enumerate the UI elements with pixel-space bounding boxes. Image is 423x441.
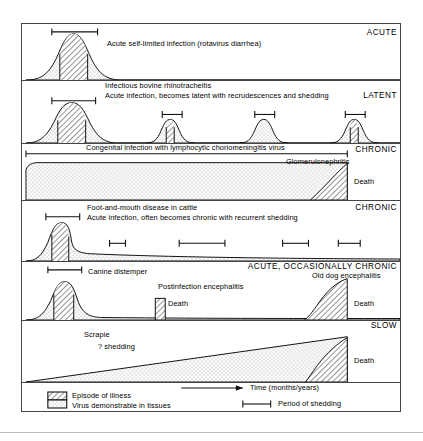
panel-chronic-lcmv: CHRONIC Congenital infection with lympho…	[22, 144, 400, 201]
figure-root: ACUTE Acute self-limited infection (rota…	[0, 0, 423, 441]
panel-slow-line-1: Scrapie	[84, 331, 110, 339]
panel-slow-line-2: ? shedding	[98, 343, 135, 351]
panel-chronic-fmd-line-2: Acute infection, often becomes chronic w…	[87, 214, 298, 222]
panel-chronic-fmd-category: CHRONIC	[355, 203, 397, 212]
footer-divider	[0, 432, 423, 433]
panel-acute: ACUTE Acute self-limited infection (rota…	[22, 24, 400, 81]
panel-acute-line-1: Acute self-limited infection (rotavirus …	[107, 40, 261, 48]
panel-slow-plot	[22, 321, 400, 382]
panel-chronic-lcmv-death: Death	[354, 178, 374, 186]
panel-chronic-lcmv-plot	[22, 144, 400, 200]
panel-chronic-fmd-plot	[22, 201, 400, 261]
legend-panel: Time (months/years) Episode of illness V…	[22, 383, 400, 413]
panel-slow-death: Death	[354, 357, 374, 365]
legend-label-episode: Episode of illness	[72, 392, 131, 400]
panel-latent-line-2: Acute infection, becomes latent with rec…	[105, 92, 329, 100]
panel-latent: LATENT Infectious bovine rhinotracheitis…	[22, 81, 400, 144]
panel-chronic-lcmv-line-1: Congenital infection with lymphocytic ch…	[86, 144, 285, 152]
panel-chronic-lcmv-line-2: Glomerulonephritis	[286, 158, 349, 166]
panel-slow: SLOW Scrapie ? shedding Death	[22, 321, 400, 383]
time-axis-label: Time (months/years)	[250, 384, 319, 392]
panel-acute-category: ACUTE	[367, 28, 397, 37]
time-arrow-icon	[181, 385, 243, 391]
panel-latent-category: LATENT	[363, 91, 397, 100]
legend-swatch-hatched	[48, 392, 67, 400]
panel-chronic-lcmv-category: CHRONIC	[355, 145, 397, 154]
panel-chronic-fmd: CHRONIC Foot-and-mouth disease in cattle…	[22, 201, 400, 262]
legend-shedding-marker	[243, 401, 271, 408]
legend-label-virus: Virus demonstrable in tissues	[72, 402, 171, 410]
legend-swatch-stippled	[48, 400, 67, 408]
panel-slow-category: SLOW	[371, 321, 397, 330]
panel-latent-line-1: Infectious bovine rhinotracheitis	[105, 82, 211, 90]
panel-acute-plot	[22, 24, 400, 80]
panel-chronic-fmd-line-1: Foot-and-mouth disease in cattle	[87, 204, 197, 212]
panel-aoc-shedding	[22, 262, 400, 320]
legend-label-shedding: Period of shedding	[278, 400, 341, 408]
panel-acute-occasionally-chronic: ACUTE, OCCASIONALLY CHRONIC Canine diste…	[22, 262, 400, 321]
virus-infection-patterns-figure: ACUTE Acute self-limited infection (rota…	[21, 23, 401, 412]
